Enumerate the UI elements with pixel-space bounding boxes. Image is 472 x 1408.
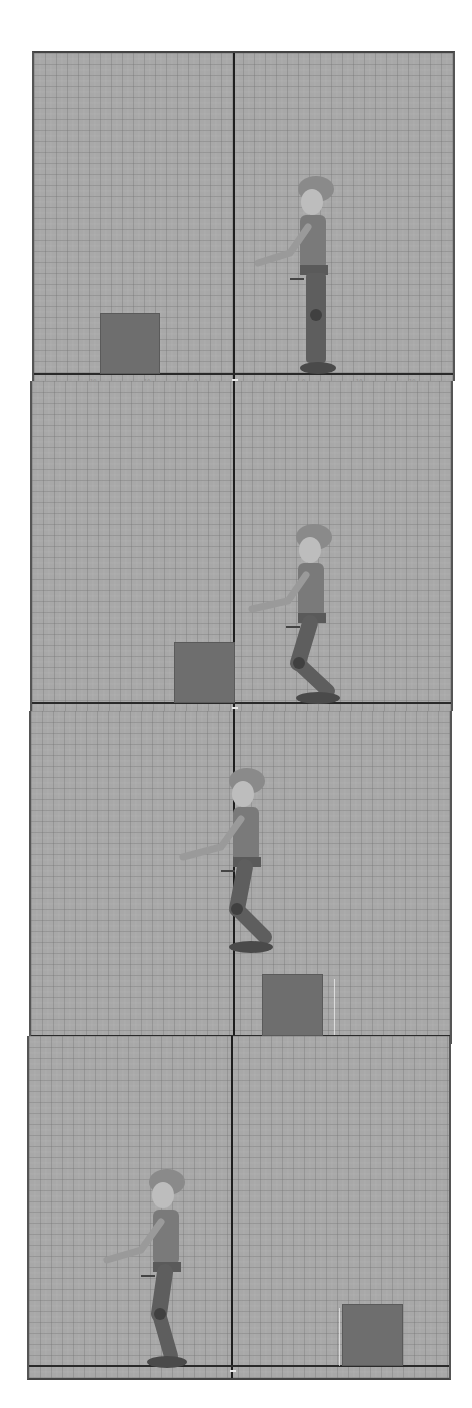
torso [298,563,324,618]
shin [159,1314,171,1356]
torso [153,1210,179,1265]
arm [107,1222,161,1260]
origin-marker [230,1370,236,1372]
cube-object[interactable] [100,313,160,374]
arm [252,575,306,609]
torso [300,215,326,270]
knee-joint [154,1308,166,1320]
foot [300,362,336,374]
character-landed[interactable] [97,1168,197,1368]
character-jump[interactable] [177,767,277,967]
origin-marker [232,707,238,709]
cube-object[interactable] [342,1304,403,1366]
torso [233,807,259,862]
head [301,189,323,215]
character-figure [107,1169,187,1368]
foot [229,941,273,953]
manipulator-handle[interactable] [334,979,335,1035]
manipulator-handle[interactable] [339,1308,340,1366]
character-figure [258,176,336,374]
character-standing[interactable] [250,175,340,375]
head [299,537,321,563]
viewport-frame-1[interactable]: 10 10 0 0 10 10 [32,51,455,381]
cube-object[interactable] [262,974,323,1036]
vertical-axis-line [231,1036,233,1378]
viewport-frame-3[interactable] [29,711,452,1044]
knee-joint [293,657,305,669]
character-figure [183,768,273,953]
viewport-frame-2[interactable] [30,381,453,711]
vertical-axis-line [233,53,235,381]
arm [183,819,241,857]
foot [147,1356,187,1368]
viewport-frame-4[interactable] [27,1036,451,1380]
knee-joint [231,903,243,915]
foot [296,692,340,704]
character-crouch[interactable] [242,523,342,705]
head [152,1182,174,1208]
cube-object[interactable] [174,642,235,703]
knee-joint [310,309,322,321]
head [232,781,254,807]
character-figure [252,524,340,704]
